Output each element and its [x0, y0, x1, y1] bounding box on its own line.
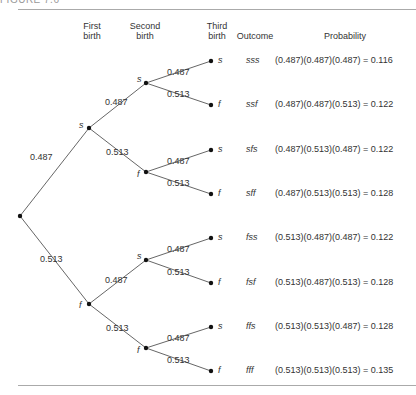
leaf-node: [209, 103, 213, 107]
branch-probability: 0.513: [40, 254, 63, 264]
outcome-label: sfs: [246, 144, 258, 154]
branch-probability: 0.513: [167, 267, 190, 277]
third-birth-label: s: [218, 144, 223, 154]
branch-probability: 0.487: [105, 97, 128, 107]
probability-value: (0.513)(0.513)(0.487) = 0.128: [275, 321, 393, 331]
leaf-node: [209, 281, 213, 285]
outcome-label: fss: [246, 232, 258, 242]
first-birth-node: [87, 126, 91, 130]
probability-value: (0.487)(0.487)(0.487) = 0.116: [275, 55, 393, 65]
branch-probability: 0.513: [167, 178, 190, 188]
second-birth-node: [144, 258, 148, 262]
node-label: f: [137, 345, 141, 355]
probability-value: (0.487)(0.513)(0.487) = 0.122: [275, 144, 393, 154]
third-birth-label: s: [218, 232, 223, 242]
outcome-label: sss: [246, 55, 260, 65]
branch-probability: 0.513: [106, 147, 129, 157]
branch-probability: 0.487: [105, 275, 128, 285]
leaf-node: [209, 59, 213, 63]
root-node: [18, 214, 22, 218]
branch-probability: 0.487: [30, 152, 53, 162]
third-birth-label: f: [218, 188, 221, 198]
branch-probability: 0.513: [106, 323, 129, 333]
branch-probability: 0.487: [167, 333, 190, 343]
probability-value: (0.487)(0.487)(0.513) = 0.122: [275, 99, 393, 109]
probability-value: (0.513)(0.487)(0.487) = 0.122: [275, 232, 393, 242]
leaf-node: [209, 148, 213, 152]
probability-value: (0.513)(0.513)(0.513) = 0.135: [275, 365, 393, 375]
outcome-label: fsf: [246, 277, 256, 287]
probability-value: (0.513)(0.487)(0.513) = 0.128: [275, 277, 393, 287]
node-label: s: [79, 120, 84, 130]
probability-value: (0.487)(0.513)(0.513) = 0.128: [275, 188, 393, 198]
first-birth-node: [87, 302, 91, 306]
third-birth-label: f: [218, 99, 221, 109]
second-birth-node: [144, 346, 148, 350]
leaf-node: [209, 369, 213, 373]
node-label: f: [79, 300, 83, 310]
node-label: f: [137, 169, 141, 179]
second-birth-node: [144, 170, 148, 174]
branch-probability: 0.513: [167, 89, 190, 99]
branch-probability: 0.513: [167, 355, 190, 365]
branch-probability: 0.487: [167, 67, 190, 77]
third-birth-label: f: [218, 277, 221, 287]
third-birth-label: s: [218, 321, 223, 331]
second-birth-node: [144, 81, 148, 85]
leaf-node: [209, 192, 213, 196]
outcome-label: ssf: [246, 99, 258, 109]
branch-probability: 0.487: [167, 156, 190, 166]
node-label: s: [137, 251, 142, 261]
node-label: s: [137, 74, 142, 84]
outcome-label: ffs: [246, 321, 256, 331]
leaf-node: [209, 236, 213, 240]
branch-edge: [20, 128, 89, 216]
third-birth-label: f: [218, 365, 221, 375]
outcome-label: sff: [246, 188, 256, 198]
third-birth-label: s: [218, 55, 223, 65]
leaf-node: [209, 325, 213, 329]
outcome-label: fff: [246, 365, 254, 375]
branch-probability: 0.487: [167, 244, 190, 254]
